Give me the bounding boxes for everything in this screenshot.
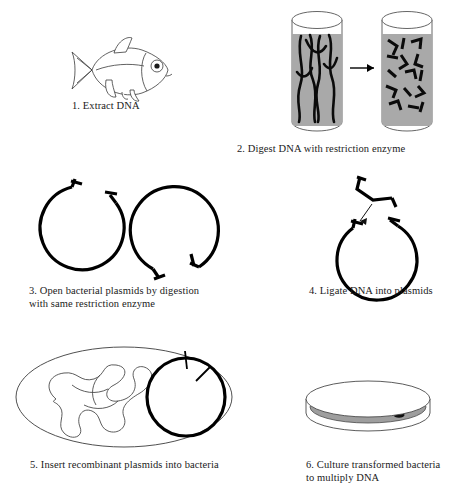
test-tube-digested-dna — [381, 12, 433, 132]
tube-rim-left — [292, 12, 342, 29]
bacterium-illustration — [14, 345, 259, 457]
eye-pupil — [154, 63, 159, 68]
tube-medium-right — [381, 34, 433, 126]
tail-fin — [72, 52, 92, 89]
arrow-head — [367, 64, 374, 72]
plasmid-left-overhang-c — [110, 195, 116, 203]
plasmid-left-overhang-d — [105, 192, 117, 194]
ligation-illustration — [322, 173, 442, 291]
step-6-panel: 6. Culture transformed bacteria to multi… — [290, 335, 456, 501]
step-1-caption: 1. Extract DNA — [72, 100, 222, 113]
petri-dish-illustration — [296, 377, 446, 443]
open-plasmids-illustration — [28, 175, 248, 293]
fragment-end-tick-right — [392, 198, 396, 207]
dna-cloning-figure: 1. Extract DNA — [0, 0, 456, 501]
fish-body-group — [72, 38, 172, 102]
step-4-caption: 4. Ligate DNA into plasmids — [309, 285, 456, 298]
dna-fragment-sticky-ends — [357, 177, 396, 207]
plasmid-open-left — [40, 179, 124, 270]
step-3-panel: 3. Open bacterial plasmids by digestion … — [0, 165, 300, 335]
reaction-arrow — [350, 64, 374, 72]
insertion-arrow — [360, 204, 372, 225]
tube-rim-right — [382, 12, 432, 29]
dish-rim — [306, 381, 430, 417]
step-1-panel: 1. Extract DNA — [0, 0, 228, 130]
step-6-caption: 6. Culture transformed bacteria to multi… — [306, 459, 456, 484]
step-2-panel: 2. Digest DNA with restriction enzyme — [228, 0, 456, 165]
step-3-caption: 3. Open bacterial plasmids by digestion … — [29, 285, 289, 310]
step-2-caption: 2. Digest DNA with restriction enzyme — [237, 143, 456, 156]
test-tube-intact-dna — [291, 12, 343, 132]
step-4-panel: 4. Ligate DNA into plasmids — [300, 165, 456, 335]
plasmid-open-right — [130, 187, 218, 279]
step-5-caption: 5. Insert recombinant plasmids into bact… — [30, 459, 280, 472]
digestion-illustration — [268, 6, 453, 134]
fragment-backbone — [357, 177, 392, 200]
fish-illustration — [62, 34, 174, 106]
plasmid-right-arc — [130, 187, 218, 269]
step-5-panel: 5. Insert recombinant plasmids into bact… — [0, 335, 290, 501]
